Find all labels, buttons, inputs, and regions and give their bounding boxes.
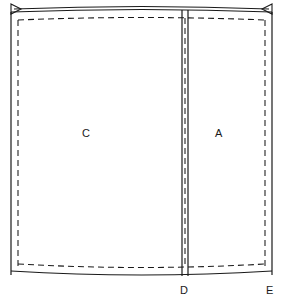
panel-label-a: A — [215, 128, 223, 139]
point-label-d: D — [180, 285, 188, 296]
cut-line-outline — [11, 10, 272, 276]
pattern-diagram-svg — [0, 0, 284, 305]
pattern-diagram-canvas: C A D E — [0, 0, 284, 305]
outline-top-edge — [11, 10, 272, 13]
stitch-bottom-edge — [18, 264, 265, 268]
center-fold-seam — [182, 10, 188, 276]
stitch-top-edge — [18, 18, 265, 21]
seam-allowance-line — [18, 18, 265, 268]
dimension-line — [14, 7, 269, 10]
outline-bottom-edge — [11, 271, 272, 275]
point-label-e: E — [266, 285, 274, 296]
panel-label-c: C — [82, 128, 90, 139]
